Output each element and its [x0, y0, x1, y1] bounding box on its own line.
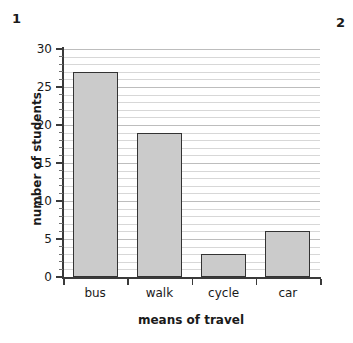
y-tick-minor [59, 178, 63, 179]
y-tick-major [56, 48, 63, 50]
x-tick [320, 279, 322, 285]
x-tick-label-car: car [256, 287, 320, 299]
x-tick-label-bus: bus [63, 287, 127, 299]
y-tick-minor [59, 79, 63, 80]
y-tick-label: 25 [12, 81, 52, 93]
x-tick [127, 279, 129, 285]
y-tick-minor [59, 147, 63, 148]
y-tick-minor [59, 261, 63, 262]
y-tick-minor [59, 102, 63, 103]
y-tick-minor [59, 246, 63, 247]
y-tick-minor [59, 269, 63, 270]
x-tick [192, 279, 194, 285]
y-tick-major [56, 238, 63, 240]
y-tick-major [56, 200, 63, 202]
y-tick-label: 0 [12, 271, 52, 283]
y-tick-minor [59, 117, 63, 118]
y-tick-minor [59, 223, 63, 224]
y-tick-label: 20 [12, 119, 52, 131]
y-tick-label: 5 [12, 233, 52, 245]
plot-area [63, 49, 320, 277]
y-tick-minor [59, 216, 63, 217]
y-tick-minor [59, 94, 63, 95]
gridline [63, 49, 320, 50]
y-tick-major [56, 162, 63, 164]
x-axis-title: means of travel [62, 313, 320, 327]
bar-cycle [201, 254, 246, 277]
y-tick-minor [59, 231, 63, 232]
y-tick-label: 15 [12, 157, 52, 169]
bar-bus [73, 72, 118, 277]
y-tick-major [56, 86, 63, 88]
y-tick-minor [59, 109, 63, 110]
bar-car [265, 231, 310, 277]
gridline [63, 64, 320, 65]
y-tick-minor [59, 71, 63, 72]
y-tick-label: 30 [12, 43, 52, 55]
x-tick [63, 279, 65, 285]
y-tick-minor [59, 193, 63, 194]
bar-chart-figure: number of students means of travel 05101… [0, 0, 353, 343]
y-tick-minor [59, 185, 63, 186]
y-tick-minor [59, 254, 63, 255]
x-tick-label-cycle: cycle [192, 287, 256, 299]
y-tick-minor [59, 56, 63, 57]
y-tick-minor [59, 155, 63, 156]
y-tick-minor [59, 140, 63, 141]
y-tick-minor [59, 132, 63, 133]
bar-walk [137, 133, 182, 277]
y-tick-minor [59, 208, 63, 209]
y-tick-major [56, 124, 63, 126]
y-tick-label: 10 [12, 195, 52, 207]
y-tick-minor [59, 64, 63, 65]
gridline [63, 57, 320, 58]
x-tick [256, 279, 258, 285]
y-tick-major [56, 276, 63, 278]
y-tick-minor [59, 170, 63, 171]
x-tick-label-walk: walk [127, 287, 191, 299]
